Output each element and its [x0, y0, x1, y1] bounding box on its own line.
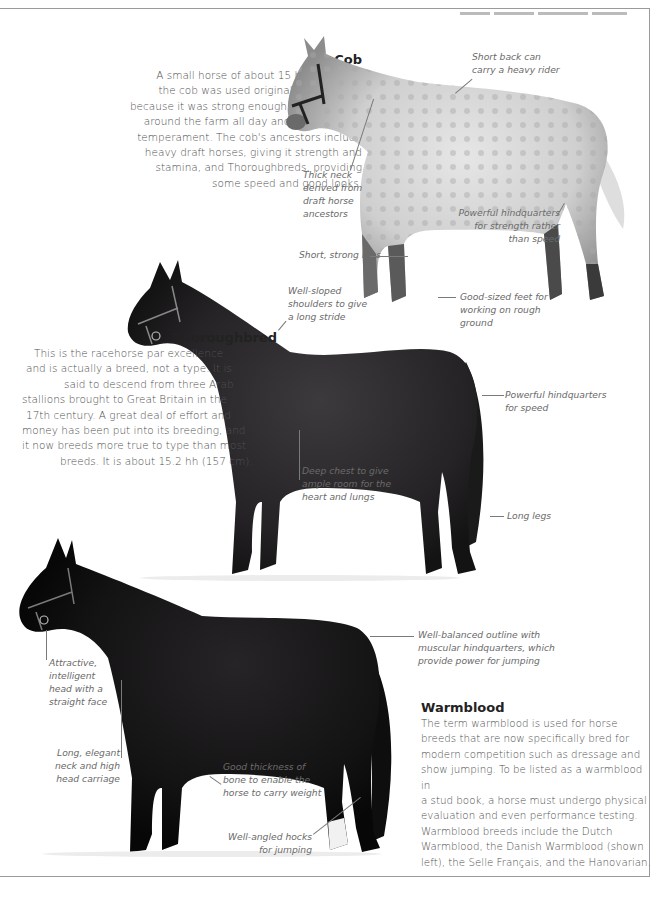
- annotation-line: shoulders to give: [288, 297, 398, 310]
- leader-line: [46, 630, 47, 660]
- text-line: 17th century. A great deal of effort and: [22, 408, 302, 423]
- leader-line: [121, 680, 122, 758]
- leader-line: [482, 395, 504, 396]
- annotation-well-balanced: Well-balanced outline with muscular hind…: [418, 628, 598, 667]
- annotation-line: horse to carry weight: [223, 786, 343, 799]
- warmblood-title: Warmblood: [421, 700, 621, 715]
- annotation-line: Well-angled hocks: [220, 830, 312, 843]
- annotation-hocks: Well-angled hocks for jumping: [220, 830, 312, 856]
- annotation-head: Attractive, intelligent head with a stra…: [49, 656, 129, 708]
- page-frame-bottom: [0, 876, 650, 877]
- leader-line: [299, 430, 300, 480]
- annotation-cob-hindquarters: Powerful hindquarters for strength rathe…: [440, 206, 560, 245]
- annotation-shoulders: Well-sloped shoulders to give a long str…: [288, 284, 398, 323]
- annotation-line: carry a heavy rider: [472, 63, 592, 76]
- annotation-line: draft horse: [303, 194, 383, 207]
- annotation-line: head with a: [49, 682, 129, 695]
- cropped-header-text: [460, 0, 640, 3]
- annotation-line: Good thickness of: [223, 760, 343, 773]
- annotation-line: ancestors: [303, 207, 383, 220]
- annotation-line: for jumping: [220, 843, 312, 856]
- text-line: Warmblood, the Danish Warmblood (shown: [421, 839, 651, 854]
- text-line: show jumping. To be listed as a warmbloo…: [421, 762, 651, 793]
- annotation-deep-chest: Deep chest to give ample room for the he…: [302, 464, 412, 503]
- leader-line: [490, 516, 504, 517]
- annotation-line: Short back can: [472, 50, 592, 63]
- annotation-line: than speed: [440, 232, 560, 245]
- page-frame-top: [0, 8, 650, 9]
- annotation-tb-hindquarters: Powerful hindquarters for speed: [505, 388, 615, 414]
- annotation-long-legs: Long legs: [507, 509, 567, 522]
- annotation-line: straight face: [49, 695, 129, 708]
- annotation-line: Deep chest to give: [302, 464, 412, 477]
- annotation-neck: Long, elegant neck and high head carriag…: [30, 746, 120, 785]
- annotation-line: provide power for jumping: [418, 654, 598, 667]
- text-line: breeds. It is about 15.2 hh (157 cm).: [22, 454, 302, 469]
- annotation-line: intelligent: [49, 669, 129, 682]
- text-line: it now breeds more true to type than mos…: [22, 438, 302, 453]
- text-line: said to descend from three Arab: [22, 377, 302, 392]
- text-line: The term warmblood is used for horse: [421, 716, 651, 731]
- text-line: modern competition such as dressage and: [421, 747, 651, 762]
- text-line: money has been put into its breeding, an…: [22, 423, 302, 438]
- annotation-line: Well-sloped: [288, 284, 398, 297]
- text-line: a stud book, a horse must undergo physic…: [421, 793, 651, 808]
- annotation-line: for speed: [505, 401, 615, 414]
- text-line: and is actually a breed, not a type. It …: [22, 361, 302, 376]
- annotation-line: heart and lungs: [302, 490, 412, 503]
- annotation-line: a long stride: [288, 310, 398, 323]
- annotation-line: muscular hindquarters, which: [418, 641, 598, 654]
- text-line: left), the Selle Français, and the Hanov…: [421, 855, 651, 870]
- annotation-line: bone to enable the: [223, 773, 343, 786]
- annotation-thick-neck: Thick neck derived from draft horse ance…: [303, 168, 383, 220]
- annotation-short-back: Short back can carry a heavy rider: [472, 50, 592, 76]
- annotation-line: derived from: [303, 181, 383, 194]
- thoroughbred-title: Thoroughbred: [140, 330, 277, 345]
- text-line: Warmblood breeds include the Dutch: [421, 824, 651, 839]
- text-line: stallions brought to Great Britain in th…: [22, 392, 302, 407]
- annotation-bone: Good thickness of bone to enable the hor…: [223, 760, 343, 799]
- annotation-line: Powerful hindquarters: [505, 388, 615, 401]
- annotation-line: Long, elegant: [30, 746, 120, 759]
- text-line: breeds that are now specifically bred fo…: [421, 731, 651, 746]
- annotation-line: Powerful hindquarters: [440, 206, 560, 219]
- annotation-line: ample room for the: [302, 477, 412, 490]
- annotation-line: neck and high: [30, 759, 120, 772]
- thoroughbred-description: This is the racehorse par excellence and…: [22, 346, 302, 469]
- annotation-line: for strength rather: [440, 219, 560, 232]
- annotation-line: head carriage: [30, 772, 120, 785]
- warmblood-description: The term warmblood is used for horse bre…: [421, 716, 651, 870]
- leader-line: [370, 636, 414, 637]
- annotation-line: Thick neck: [303, 168, 383, 181]
- text-line: This is the racehorse par excellence: [22, 346, 302, 361]
- annotation-line: Attractive,: [49, 656, 129, 669]
- text-line: evaluation and even performance testing.: [421, 808, 651, 823]
- annotation-line: Well-balanced outline with: [418, 628, 598, 641]
